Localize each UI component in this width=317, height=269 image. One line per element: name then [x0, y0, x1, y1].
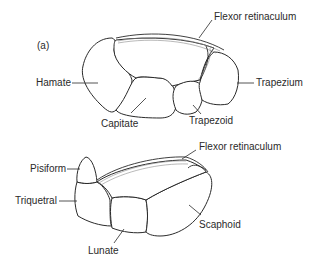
- label-hamate: Hamate: [36, 78, 71, 88]
- label-flexor-retinaculum-bottom: Flexor retinaculum: [199, 142, 281, 152]
- label-triquetral: Triquetral: [15, 196, 57, 206]
- lunate-bone: [111, 197, 148, 233]
- label-trapezoid: Trapezoid: [189, 116, 233, 126]
- trapezoid-bone: [173, 81, 203, 114]
- label-flexor-retinaculum-top: Flexor retinaculum: [214, 12, 296, 22]
- pisiform-bone: [77, 157, 97, 184]
- panel-label: (a): [37, 41, 49, 51]
- label-pisiform: Pisiform: [30, 164, 66, 174]
- label-lunate: Lunate: [88, 246, 119, 256]
- distal-carpal-row: [82, 34, 238, 118]
- label-scaphoid: Scaphoid: [199, 220, 241, 230]
- label-capitate: Capitate: [101, 119, 138, 129]
- label-trapezium: Trapezium: [256, 78, 303, 88]
- proximal-carpal-row: [75, 157, 212, 236]
